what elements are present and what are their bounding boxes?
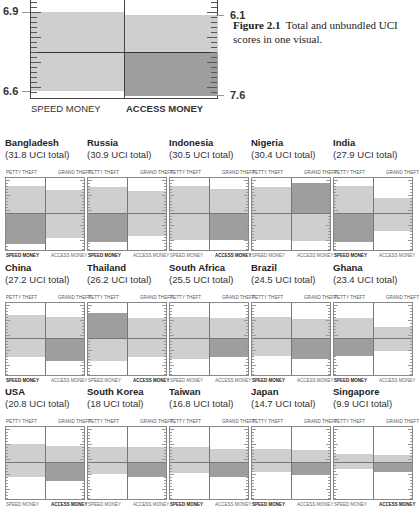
- petty-theft-block: [252, 317, 291, 338]
- tick-mark: [246, 347, 248, 348]
- tick-mark: [252, 308, 254, 309]
- tick-mark: [246, 314, 248, 315]
- tick-mark: [6, 326, 8, 327]
- tick-mark: [252, 329, 254, 330]
- tick-mark: [252, 246, 254, 247]
- country-panel: Japan (14.7 UCI total) PETTY THEFT GRAND…: [251, 386, 331, 510]
- tick-mark: [408, 180, 412, 181]
- speed-money-block: [6, 462, 45, 477]
- quadrant-box: [169, 302, 249, 376]
- tick-mark: [82, 456, 84, 457]
- tick-mark: [252, 453, 254, 454]
- tick-mark: [334, 486, 336, 487]
- tick-mark: [164, 249, 166, 250]
- tick-mark: [82, 308, 84, 309]
- tick-mark: [82, 249, 84, 250]
- tick-mark: [252, 204, 254, 205]
- tick-mark: [6, 341, 8, 342]
- left-ticks: [252, 303, 256, 375]
- tick-mark: [252, 486, 254, 487]
- right-ticks: [162, 427, 166, 499]
- tick-mark: [252, 350, 256, 351]
- tick-mark: [164, 317, 166, 318]
- tick-mark: [252, 468, 254, 469]
- tick-mark: [170, 192, 172, 193]
- country-name: Singapore: [333, 386, 379, 397]
- tick-mark: [252, 344, 254, 345]
- midline: [334, 338, 412, 339]
- tick-mark: [88, 228, 90, 229]
- tick-mark: [170, 450, 172, 451]
- tick-mark: [410, 246, 412, 247]
- access-money-footer: ACCESS MONEY: [215, 253, 252, 258]
- tick-mark: [82, 347, 84, 348]
- tick-mark: [334, 474, 338, 475]
- tick-mark: [246, 374, 248, 375]
- tick-mark: [326, 489, 330, 490]
- tick-mark: [252, 326, 254, 327]
- tick-mark: [6, 216, 8, 217]
- tick-mark: [326, 444, 330, 445]
- tick-mark: [164, 456, 166, 457]
- country-panel: Ghana (23.4 UCI total) PETTY THEFT GRAND…: [333, 262, 413, 387]
- quadrant-box: [87, 426, 167, 500]
- tick-mark: [334, 210, 338, 211]
- tick-mark: [408, 429, 412, 430]
- tick-mark: [170, 308, 172, 309]
- tick-mark: [328, 486, 330, 487]
- tick-mark: [31, 52, 37, 53]
- tick-mark: [252, 311, 254, 312]
- tick-mark: [334, 374, 336, 375]
- tick-mark: [6, 186, 8, 187]
- tick-mark: [252, 189, 254, 190]
- country-name: Japan: [251, 386, 278, 397]
- petty-theft-value: 6.9: [3, 5, 18, 17]
- tick-mark: [334, 335, 338, 336]
- tick-mark: [82, 353, 84, 354]
- petty-theft-header: PETTY THEFT: [252, 419, 283, 424]
- tick-mark: [88, 456, 90, 457]
- tick-mark: [82, 329, 84, 330]
- tick-mark: [328, 231, 330, 232]
- access-money-block: [46, 213, 84, 238]
- tick-mark: [334, 477, 336, 478]
- tick-mark: [82, 186, 84, 187]
- left-ticks: [252, 427, 256, 499]
- grand-theft-block: [374, 327, 412, 338]
- tick-mark: [252, 347, 254, 348]
- tick-mark: [207, 87, 217, 88]
- grand-theft-block: [374, 455, 412, 462]
- tick-mark: [88, 432, 90, 433]
- tick-mark: [211, 22, 217, 23]
- midline: [6, 462, 84, 463]
- country-total: (20.8 UCI total): [5, 398, 69, 409]
- tick-mark: [170, 483, 172, 484]
- tick-mark: [82, 222, 84, 223]
- tick-mark: [6, 225, 10, 226]
- tick-mark: [252, 471, 254, 472]
- tick-mark: [246, 356, 248, 357]
- tick-mark: [88, 225, 92, 226]
- tick-mark: [88, 492, 90, 493]
- tick-mark: [170, 329, 172, 330]
- right-ticks: [162, 303, 166, 375]
- midline: [170, 213, 248, 214]
- tick-mark: [211, 2, 217, 3]
- grand-theft-block: [210, 318, 248, 338]
- tick-mark: [328, 246, 330, 247]
- country-panel: India (27.9 UCI total) PETTY THEFT GRAND…: [333, 137, 413, 262]
- tick-mark: [164, 447, 166, 448]
- tick-mark: [88, 438, 90, 439]
- left-column: [6, 178, 45, 250]
- tick-mark: [328, 308, 330, 309]
- tick-mark: [88, 447, 90, 448]
- tick-mark: [328, 192, 330, 193]
- tick-mark: [211, 52, 217, 53]
- tick-mark: [410, 314, 412, 315]
- tick-mark: [82, 486, 84, 487]
- tick-mark: [170, 441, 172, 442]
- speed-money-footer: SPEED MONEY: [334, 253, 367, 258]
- tick-mark: [246, 204, 248, 205]
- tick-mark: [162, 195, 166, 196]
- tick-mark: [164, 216, 166, 217]
